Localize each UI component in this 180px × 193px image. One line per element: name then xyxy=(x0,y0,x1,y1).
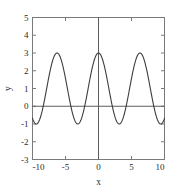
y-tick-label: 5 xyxy=(24,13,29,23)
y-tick-label: -2 xyxy=(21,137,29,147)
y-tick-label: 0 xyxy=(24,101,29,111)
x-axis-title: x xyxy=(96,177,101,187)
x-tick-label: 0 xyxy=(96,162,101,172)
x-tick-label: 5 xyxy=(129,162,134,172)
y-tick-label: 4 xyxy=(24,30,29,40)
figure-container: -10-50510 -3-2-1012345 x y xyxy=(0,0,180,193)
y-tick-label: 2 xyxy=(24,66,29,76)
y-tick-label: -3 xyxy=(21,155,29,165)
x-tick-label: -5 xyxy=(62,162,70,172)
x-tick-label: -10 xyxy=(33,162,45,172)
y-tick-label: 3 xyxy=(24,48,29,58)
y-tick-label: -1 xyxy=(21,119,29,129)
y-axis-title: y xyxy=(3,86,13,91)
y-tick-label: 1 xyxy=(24,84,29,94)
x-tick-label: 10 xyxy=(156,162,166,172)
line-chart: -10-50510 -3-2-1012345 x y xyxy=(0,0,180,193)
